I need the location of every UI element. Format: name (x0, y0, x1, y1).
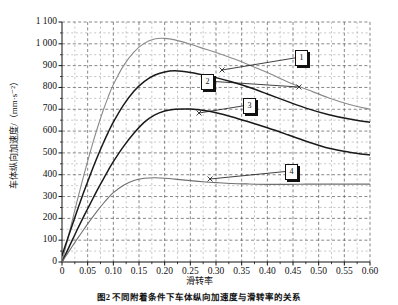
y-tick-label: 100 (13, 235, 57, 245)
y-tick-label: 1 100 (13, 17, 57, 27)
callout-3: 3 (243, 98, 256, 114)
chart-plot-area (0, 0, 398, 305)
y-tick-label: 0 (13, 257, 57, 267)
y-tick-label: 800 (13, 82, 57, 92)
y-tick-label: 600 (13, 126, 57, 136)
y-tick-label: 900 (13, 61, 57, 71)
callout-1: 1 (295, 50, 308, 66)
y-tick-label: 300 (13, 192, 57, 202)
callout-4: 4 (285, 164, 298, 180)
y-tick-label: 700 (13, 104, 57, 114)
y-tick-label: 500 (13, 148, 57, 158)
x-axis-title: 滑转率 (0, 276, 398, 286)
figure-container: 01002003004005006007008009001 0001 100 0… (0, 0, 398, 305)
y-tick-label: 200 (13, 213, 57, 223)
y-axis-title: 车体纵向加速度/（mm·s⁻²） (9, 33, 19, 233)
y-tick-label: 400 (13, 170, 57, 180)
y-tick-label: 1 000 (13, 39, 57, 49)
callout-2: 2 (201, 74, 214, 90)
figure-caption: 图2 不同附着条件下车体纵向加速度与滑转率的关系 (0, 292, 398, 305)
